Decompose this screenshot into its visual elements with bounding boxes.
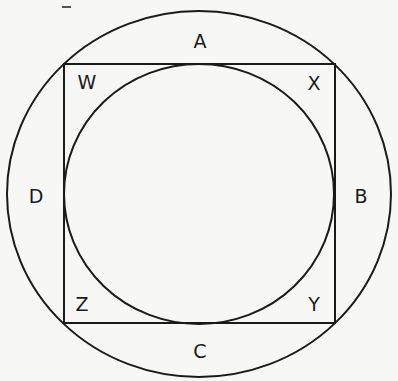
geometry-figure: A B C D W X Y Z — [0, 0, 398, 381]
scan-mark — [62, 6, 71, 8]
label-z: Z — [75, 295, 88, 314]
label-x: X — [307, 74, 320, 93]
label-y: Y — [308, 295, 320, 314]
label-w: W — [78, 73, 97, 92]
figure-canvas — [0, 0, 398, 381]
label-c: C — [193, 342, 206, 361]
label-b: B — [354, 187, 367, 206]
label-d: D — [29, 187, 44, 206]
inner-circle — [64, 64, 334, 324]
label-a: A — [194, 32, 207, 51]
